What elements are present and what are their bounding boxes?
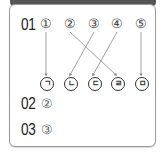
answer-02: ② (41, 96, 53, 111)
bottom-item-giyeok: ㄱ (40, 77, 54, 91)
bottom-item-rieul: ㄹ (111, 77, 125, 91)
question-number-03: 03 (21, 120, 35, 140)
bottom-item-digeut: ㄷ (88, 77, 102, 91)
question-number-02: 02 (21, 94, 35, 114)
bottom-item-mieum: ㅁ (135, 77, 149, 91)
bottom-item-nieun: ㄴ (64, 77, 78, 91)
answer-03: ③ (41, 122, 53, 137)
